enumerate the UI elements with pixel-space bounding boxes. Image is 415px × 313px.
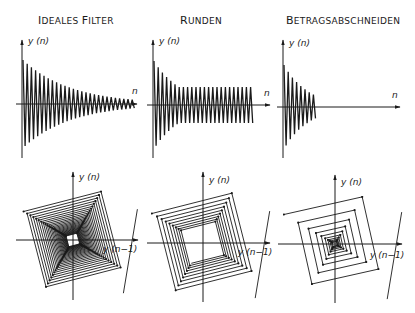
phase-plot-magnitude-truncation: [278, 175, 402, 303]
time-plot-magnitude-truncation: [277, 40, 400, 158]
y-axis-label-clip: y (n): [289, 38, 310, 48]
time-plot-rounding: [147, 40, 270, 158]
phase-x-label-round: y (n−1): [238, 247, 272, 257]
phase-plot-ideal-filter: [16, 172, 138, 300]
phase-x-label-clip: y (n−1): [370, 250, 404, 260]
x-axis-label-round: n: [264, 88, 270, 98]
x-axis-label-clip: n: [392, 90, 398, 100]
phase-y-label-round: y (n): [209, 175, 230, 185]
phase-y-label-ideal: y (n): [79, 172, 100, 182]
y-axis-label-round: y (n): [159, 36, 180, 46]
phase-x-label-ideal: y (n−1): [103, 244, 137, 254]
title-rounding: RUNDEN: [180, 14, 222, 27]
phase-y-label-clip: y (n): [341, 177, 362, 187]
title-magnitude-truncation: BETRAGSABSCHNEIDEN: [286, 14, 400, 27]
figure-canvas: [0, 0, 415, 313]
x-axis-label-ideal: n: [132, 86, 138, 96]
y-axis-label-ideal: y (n): [28, 36, 49, 46]
phase-plot-rounding: [147, 172, 270, 302]
time-plot-ideal-filter: [16, 40, 137, 158]
title-ideal-filter: IDEALES FILTER: [38, 14, 114, 27]
